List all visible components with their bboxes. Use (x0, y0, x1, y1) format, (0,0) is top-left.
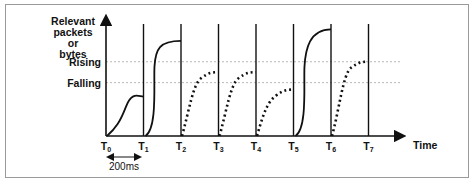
below-threshold-sample-curve (182, 72, 219, 136)
below-threshold-sample-curve (257, 90, 294, 136)
below-threshold-sample-curve (220, 72, 257, 136)
below-threshold-sample-curve (332, 62, 369, 136)
falling-threshold-label: Falling (67, 77, 101, 89)
time-tick-label: T2 (176, 140, 186, 153)
time-tick-label: T7 (363, 140, 373, 153)
time-tick-label: T4 (251, 140, 261, 153)
rising-threshold-label: Rising (69, 56, 101, 68)
interval-label: 200ms (109, 161, 139, 172)
time-tick-label: T0 (101, 140, 111, 153)
rmon-threshold-diagram: Relevant packets or bytes Rising Falling… (0, 0, 474, 185)
x-axis-label: Time (413, 139, 437, 151)
time-tick-label: T1 (138, 140, 148, 153)
alarm-sample-curve (107, 96, 144, 136)
time-tick-label: T3 (213, 140, 223, 153)
alarm-sample-curve (296, 29, 332, 136)
time-tick-label: T5 (288, 140, 298, 153)
alarm-sample-curve (146, 41, 182, 136)
time-tick-label: T6 (326, 140, 336, 153)
